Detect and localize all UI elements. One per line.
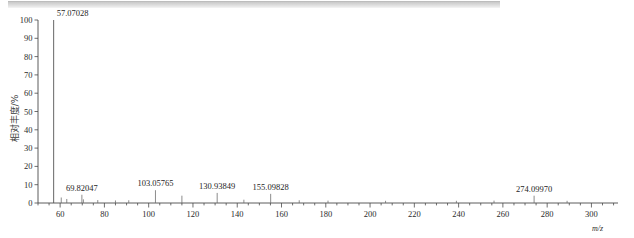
peak-label: 130.93849 xyxy=(199,181,235,191)
x-tick-label: 200 xyxy=(364,209,377,219)
x-tick-label: 260 xyxy=(497,209,510,219)
peak-label: 155.09828 xyxy=(253,182,289,192)
peak-label: 69.82047 xyxy=(66,183,98,193)
x-axis-title: m/z xyxy=(592,224,603,233)
peak-label: 103.05765 xyxy=(137,178,173,188)
y-tick-label: 100 xyxy=(20,15,33,25)
y-tick-label: 50 xyxy=(24,107,33,117)
x-tick-label: 100 xyxy=(142,209,155,219)
y-tick-label: 70 xyxy=(24,70,33,80)
x-tick-label: 180 xyxy=(319,209,332,219)
x-tick-label: 240 xyxy=(452,209,465,219)
x-tick-label: 280 xyxy=(541,209,554,219)
peak-label: 274.09970 xyxy=(516,184,552,194)
x-tick-label: 120 xyxy=(187,209,200,219)
x-tick-label: 60 xyxy=(56,209,65,219)
y-tick-label: 40 xyxy=(24,125,33,135)
x-tick-label: 300 xyxy=(585,209,598,219)
spectrum-plot-area: 0102030405060708090100608010012014016018… xyxy=(0,0,634,238)
y-tick-label: 80 xyxy=(24,52,33,62)
x-tick-label: 160 xyxy=(275,209,288,219)
peak-label: 57.07028 xyxy=(57,8,89,18)
y-tick-label: 20 xyxy=(24,161,33,171)
spectrum-svg: 0102030405060708090100608010012014016018… xyxy=(0,0,634,238)
mass-spectrum-page: 0102030405060708090100608010012014016018… xyxy=(0,0,634,238)
x-tick-label: 220 xyxy=(408,209,421,219)
y-tick-label: 10 xyxy=(24,180,33,190)
y-tick-label: 90 xyxy=(24,33,33,43)
y-axis-title: 相对丰度/% xyxy=(8,74,21,164)
x-tick-label: 80 xyxy=(100,209,109,219)
y-tick-label: 60 xyxy=(24,88,33,98)
y-tick-label: 0 xyxy=(28,198,32,208)
y-tick-label: 30 xyxy=(24,143,33,153)
x-tick-label: 140 xyxy=(231,209,244,219)
